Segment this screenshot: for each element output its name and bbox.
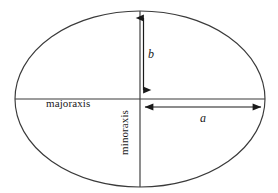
semi-major-axis-label-a: a <box>200 112 206 124</box>
ellipse-figure-svg <box>0 0 278 193</box>
major-axis-label: majoraxis <box>46 98 90 109</box>
minor-axis-label: minoraxis <box>119 110 130 155</box>
ellipse-diagram: majoraxis minoraxis b a <box>0 0 278 193</box>
semi-minor-axis-label-b: b <box>148 48 154 60</box>
